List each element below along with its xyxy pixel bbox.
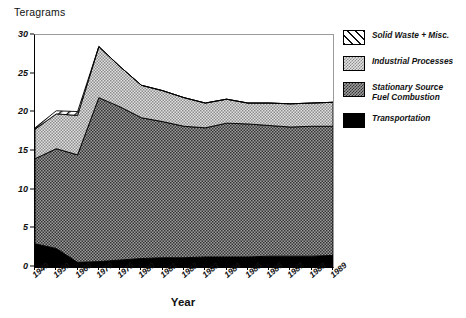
legend-swatch-solid-waste xyxy=(343,30,365,45)
y-tick-mark-20 xyxy=(30,111,34,112)
legend-swatch-industrial-processes xyxy=(343,56,365,71)
y-tick-label-5: 5 xyxy=(2,222,28,232)
chart-legend: Solid Waste + Misc. Industrial Processes… xyxy=(343,30,463,139)
y-tick-mark-10 xyxy=(30,188,34,189)
y-tick-mark-30 xyxy=(30,34,34,35)
legend-label-stationary-source-line2: Fuel Combustion xyxy=(372,93,443,103)
y-tick-label-25: 25 xyxy=(2,68,28,78)
legend-item-solid-waste[interactable]: Solid Waste + Misc. xyxy=(343,30,463,45)
chart-canvas: Teragrams 0510152 xyxy=(0,0,466,318)
y-axis-title: Teragrams xyxy=(14,6,65,18)
y-tick-mark-25 xyxy=(30,72,34,73)
y-tick-label-10: 10 xyxy=(2,184,28,194)
legend-item-industrial-processes[interactable]: Industrial Processes xyxy=(343,56,463,71)
legend-label-solid-waste: Solid Waste + Misc. xyxy=(372,31,449,41)
legend-item-transportation[interactable]: Transportation xyxy=(343,113,463,128)
plot-area xyxy=(34,34,334,268)
legend-swatch-stationary-source xyxy=(343,82,365,97)
legend-swatch-transportation xyxy=(343,113,365,128)
y-tick-label-30: 30 xyxy=(2,29,28,39)
y-tick-mark-5 xyxy=(30,227,34,228)
legend-label-transportation: Transportation xyxy=(372,114,430,124)
x-axis-title: Year xyxy=(34,296,332,308)
y-tick-label-20: 20 xyxy=(2,106,28,116)
y-tick-label-15: 15 xyxy=(2,145,28,155)
legend-item-stationary-source[interactable]: Stationary Source Fuel Combustion xyxy=(343,82,463,102)
y-tick-mark-15 xyxy=(30,150,34,151)
y-tick-label-0: 0 xyxy=(2,261,28,271)
stacked-area-plot xyxy=(35,35,333,267)
legend-label-industrial-processes: Industrial Processes xyxy=(372,57,453,67)
